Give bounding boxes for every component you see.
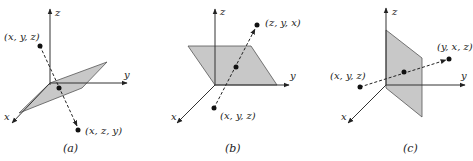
panel-c: z y x (x, y, z) (y, x, z) (c) bbox=[330, 6, 473, 155]
caption-a: (a) bbox=[63, 142, 78, 155]
reflection-plane-a bbox=[19, 62, 107, 113]
caption-b: (b) bbox=[225, 142, 241, 155]
x-axis-c bbox=[348, 85, 386, 123]
point-on-plane-b bbox=[234, 65, 239, 70]
point-original-a bbox=[38, 44, 43, 49]
z-label-c: z bbox=[391, 6, 398, 17]
label-original-a: (x, y, z) bbox=[4, 31, 40, 42]
x-label-a: x bbox=[4, 111, 10, 122]
point-reflected-a bbox=[76, 128, 81, 133]
panel-a: z y x (x, y, z) (x, z, y) (a) bbox=[4, 7, 130, 155]
x-label-b: x bbox=[171, 111, 177, 122]
reflection-diagram: z y x (x, y, z) (x, z, y) (a) z y x (x, … bbox=[0, 0, 473, 161]
point-reflected-b bbox=[255, 23, 260, 28]
z-label-a: z bbox=[54, 7, 61, 18]
x-axis-b bbox=[177, 85, 215, 123]
label-original-c: (x, y, z) bbox=[330, 70, 366, 81]
x-label-c: x bbox=[341, 111, 347, 122]
z-label-b: z bbox=[219, 6, 226, 17]
point-original-b bbox=[212, 106, 217, 111]
y-label-b: y bbox=[289, 70, 296, 81]
y-label-c: y bbox=[460, 70, 467, 81]
label-reflected-a: (x, z, y) bbox=[85, 125, 122, 136]
reflection-plane-b bbox=[188, 46, 277, 85]
point-on-plane-a bbox=[57, 86, 62, 91]
panel-b: z y x (x, y, z) (z, y, x) (b) bbox=[171, 6, 301, 155]
y-label-a: y bbox=[123, 69, 130, 80]
diagram-canvas: z y x (x, y, z) (x, z, y) (a) z y x (x, … bbox=[0, 0, 473, 161]
caption-c: (c) bbox=[403, 142, 418, 155]
label-original-b: (x, y, z) bbox=[220, 110, 256, 121]
label-reflected-c: (y, x, z) bbox=[437, 41, 473, 52]
point-reflected-c bbox=[447, 57, 452, 62]
point-original-c bbox=[358, 85, 363, 90]
point-on-plane-c bbox=[402, 70, 407, 75]
label-reflected-b: (z, y, x) bbox=[265, 17, 301, 28]
